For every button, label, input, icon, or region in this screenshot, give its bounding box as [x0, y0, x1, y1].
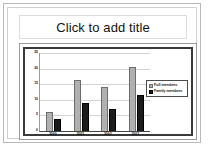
bar-full-members[interactable]	[129, 67, 136, 131]
bar-full-members[interactable]	[74, 80, 81, 131]
chart-object[interactable]: 2520151050 2000200120022003 Full members…	[19, 43, 197, 140]
y-axis-tick-label: 5	[36, 114, 38, 117]
legend-swatch-icon	[149, 84, 153, 88]
x-axis-tick-label: 2002	[104, 133, 112, 136]
bar-group	[95, 53, 123, 131]
bar-full-members[interactable]	[46, 112, 53, 131]
slide-canvas[interactable]: Click to add title 2520151050 2000200120…	[7, 7, 197, 139]
bar-family-members[interactable]	[137, 95, 144, 131]
y-axis-tick-label: 0	[36, 129, 38, 132]
y-axis: 2520151050	[26, 53, 38, 135]
title-placeholder[interactable]: Click to add title	[19, 15, 187, 39]
bar-group	[40, 53, 68, 131]
y-axis-tick-label: 10	[34, 98, 38, 101]
chart-legend: Full members Family members	[146, 80, 188, 97]
x-axis-tick-label: 2003	[131, 133, 139, 136]
plot-area	[39, 53, 150, 132]
y-axis-tick-label: 25	[34, 51, 38, 54]
y-axis-tick-label: 20	[34, 67, 38, 70]
bar-group	[68, 53, 96, 131]
x-axis: 2000200120022003	[39, 133, 149, 141]
bar-family-members[interactable]	[82, 103, 89, 131]
legend-item-label: Family members	[154, 90, 182, 94]
x-axis-tick-label: 2001	[76, 133, 84, 136]
bar-full-members[interactable]	[101, 87, 108, 131]
page-title: Click to add title	[56, 20, 150, 35]
bar-family-members[interactable]	[109, 109, 116, 131]
x-axis-tick-label: 2000	[49, 133, 57, 136]
slide-frame: Click to add title 2520151050 2000200120…	[3, 3, 201, 143]
bar-family-members[interactable]	[54, 119, 61, 131]
y-axis-tick-label: 15	[34, 82, 38, 85]
legend-item-family: Family members	[149, 89, 186, 95]
legend-swatch-icon	[149, 90, 153, 94]
legend-item-label: Full members	[154, 84, 177, 88]
bars-layer	[40, 53, 150, 131]
